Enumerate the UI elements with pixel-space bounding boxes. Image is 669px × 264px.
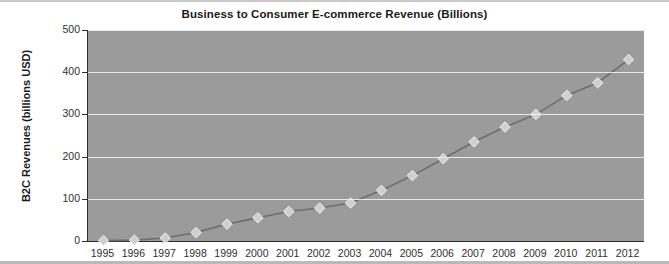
data-point-marker bbox=[376, 185, 386, 195]
data-point-marker bbox=[191, 227, 201, 237]
data-point-marker bbox=[222, 219, 232, 229]
chart-container: Business to Consumer E-commerce Revenue … bbox=[0, 0, 669, 264]
gridline bbox=[88, 72, 644, 73]
data-point-marker bbox=[253, 213, 263, 223]
series-line-b2c-revenue bbox=[88, 30, 644, 241]
gridline bbox=[88, 199, 644, 200]
gridline bbox=[88, 114, 644, 115]
y-tick-label: 100 bbox=[44, 192, 80, 204]
y-tick-label: 500 bbox=[44, 23, 80, 35]
data-point-marker bbox=[562, 90, 572, 100]
data-point-marker bbox=[314, 203, 324, 213]
series-polyline bbox=[103, 60, 628, 241]
data-point-marker bbox=[160, 233, 170, 243]
y-tick-label: 0 bbox=[44, 234, 80, 246]
data-point-marker bbox=[500, 122, 510, 132]
x-tick-label: 2012 bbox=[608, 247, 648, 259]
gridline bbox=[88, 157, 644, 158]
data-point-marker bbox=[407, 170, 417, 180]
gridline bbox=[88, 30, 644, 31]
plot-area bbox=[87, 30, 644, 242]
data-point-marker bbox=[438, 154, 448, 164]
y-tick-label: 300 bbox=[44, 107, 80, 119]
data-point-marker bbox=[284, 206, 294, 216]
y-tick-label: 400 bbox=[44, 65, 80, 77]
y-tick-label: 200 bbox=[44, 150, 80, 162]
data-point-marker bbox=[469, 137, 479, 147]
